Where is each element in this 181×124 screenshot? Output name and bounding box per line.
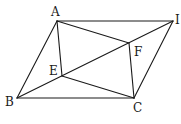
segment-EC <box>62 76 134 98</box>
segment-IC <box>134 21 173 98</box>
segments <box>17 21 173 98</box>
segment-AF <box>57 21 129 43</box>
label-B: B <box>5 95 14 109</box>
label-C: C <box>133 101 142 115</box>
label-A: A <box>50 5 60 19</box>
label-E: E <box>49 64 58 78</box>
segment-AB <box>17 21 57 98</box>
geometry-diagram: A I B C E F <box>0 0 181 124</box>
label-I: I <box>175 13 180 27</box>
label-F: F <box>134 45 142 59</box>
